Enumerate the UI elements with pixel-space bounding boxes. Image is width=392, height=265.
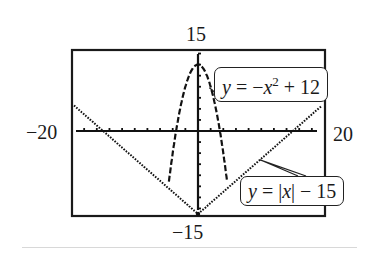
y-max-label: 15: [186, 24, 206, 44]
var-y: y: [222, 76, 231, 98]
absval-equation-callout: y = |x| − 15: [240, 176, 344, 206]
bottom-rule: [22, 247, 357, 248]
var-y: y: [248, 180, 257, 202]
eq-text: = |: [257, 180, 282, 202]
y-min-label: −15: [172, 222, 203, 242]
x-max-label: 20: [333, 124, 353, 144]
eq-text: = −: [231, 76, 264, 98]
var-x: x: [263, 76, 272, 98]
eq-rest: | − 15: [291, 180, 336, 202]
parabola-equation-callout: y = −x2 + 12: [214, 67, 328, 102]
vertex-dot: [196, 212, 200, 216]
eq-rest: + 12: [279, 76, 320, 98]
var-x: x: [282, 180, 291, 202]
x-min-label: −20: [26, 122, 57, 142]
absval-leader: [260, 160, 306, 176]
